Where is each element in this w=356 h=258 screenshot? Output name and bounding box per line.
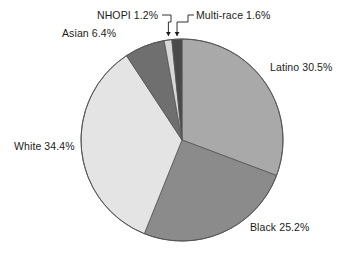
leader-line-group [162, 15, 194, 36]
pie-chart-canvas [0, 0, 356, 258]
pie-label-nhopi: NHOPI 1.2% [97, 10, 158, 22]
pie-slice-group [81, 39, 283, 241]
leader-arrowhead-nhopi [166, 32, 171, 36]
leader-line-multi-race [177, 15, 194, 36]
pie-label-asian: Asian 6.4% [62, 28, 116, 40]
pie-label-black: Black 25.2% [250, 222, 309, 234]
pie-label-white: White 34.4% [14, 141, 75, 153]
pie-label-multi-race: Multi-race 1.6% [196, 10, 270, 22]
pie-label-latino: Latino 30.5% [270, 62, 333, 74]
leader-arrowhead-multi-race [175, 32, 180, 36]
pie-chart-figure: Latino 30.5% Black 25.2% White 34.4% Asi… [0, 0, 356, 258]
